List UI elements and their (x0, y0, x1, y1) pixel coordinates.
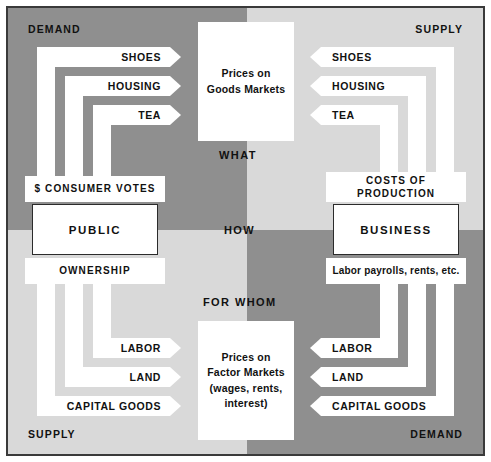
factor-market-line-4: interest) (224, 397, 267, 409)
flow-label-right-land: LAND (332, 371, 364, 383)
flow-label-right-tea: TEA (332, 109, 355, 121)
flow-arrow-left-labor: LABOR (93, 338, 181, 358)
labor-payrolls-label: Labor payrolls, rents, etc. (332, 264, 459, 278)
goods-market-line-1: Prices on (221, 67, 270, 79)
ownership-label: OWNERSHIP (59, 264, 131, 278)
flow-arrow-right-tea: TEA (310, 105, 398, 125)
business-agent-label: BUSINESS (360, 224, 432, 236)
flow-arrow-right-labor: LABOR (310, 338, 398, 358)
corner-label-bottom-left: SUPPLY (28, 428, 76, 440)
flow-arrow-left-land: LAND (65, 367, 181, 387)
flow-arrow-right-shoes: SHOES (310, 47, 454, 67)
flow-label-left-shoes: SHOES (121, 51, 161, 63)
factor-market-line-2: Factor Markets (207, 366, 285, 378)
flow-leg-left-capital (37, 284, 55, 396)
question-label-how: HOW (224, 224, 255, 236)
flow-leg-left-shoes (37, 47, 55, 182)
factor-market-box: Prices on Factor Markets (wages, rents, … (198, 321, 294, 440)
diagram-frame: SHOES HOUSING TEA SHOES HOUSING TEA LABO… (6, 6, 485, 456)
costs-of-production-label: COSTS OF PRODUCTION (357, 174, 435, 201)
flow-leg-right-capital (436, 284, 454, 396)
flow-label-right-labor: LABOR (332, 342, 372, 354)
costs-line-1: COSTS OF (366, 175, 426, 186)
flow-label-left-labor: LABOR (121, 342, 161, 354)
flow-leg-right-shoes (436, 47, 454, 182)
flow-label-left-tea: TEA (138, 109, 161, 121)
flow-arrow-right-capital: CAPITAL GOODS (310, 396, 454, 416)
corner-label-top-right: SUPPLY (415, 23, 463, 35)
flow-label-left-housing: HOUSING (108, 80, 161, 92)
corner-label-top-left: DEMAND (28, 23, 81, 35)
flow-leg-right-labor (380, 284, 398, 338)
circular-flow-diagram: SHOES HOUSING TEA SHOES HOUSING TEA LABO… (0, 0, 491, 462)
flow-arrow-left-shoes: SHOES (37, 47, 181, 67)
goods-market-box: Prices on Goods Markets (198, 22, 294, 141)
costs-of-production-band: COSTS OF PRODUCTION (326, 172, 466, 202)
public-agent-box: PUBLIC (32, 204, 158, 255)
flow-arrow-right-land: LAND (310, 367, 426, 387)
flow-label-left-land: LAND (129, 371, 161, 383)
goods-market-label: Prices on Goods Markets (207, 66, 285, 96)
flow-label-left-capital: CAPITAL GOODS (67, 400, 161, 412)
corner-label-bottom-right: DEMAND (410, 428, 463, 440)
flow-arrow-left-capital: CAPITAL GOODS (37, 396, 181, 416)
flow-label-right-shoes: SHOES (332, 51, 372, 63)
goods-market-line-2: Goods Markets (207, 83, 285, 95)
flow-leg-left-land (65, 284, 83, 367)
factor-market-label: Prices on Factor Markets (wages, rents, … (207, 350, 285, 411)
flow-label-right-capital: CAPITAL GOODS (332, 400, 426, 412)
ownership-band: OWNERSHIP (25, 258, 165, 284)
flow-arrow-left-housing: HOUSING (65, 76, 181, 96)
costs-line-2: PRODUCTION (357, 188, 435, 199)
consumer-votes-band: $ CONSUMER VOTES (25, 176, 165, 202)
labor-payrolls-band: Labor payrolls, rents, etc. (326, 258, 466, 284)
flow-leg-left-labor (93, 284, 111, 338)
factor-market-line-1: Prices on (221, 351, 270, 363)
flow-arrow-left-tea: TEA (93, 105, 181, 125)
flow-label-right-housing: HOUSING (332, 80, 385, 92)
question-label-what: WHAT (219, 149, 257, 161)
consumer-votes-label: $ CONSUMER VOTES (35, 182, 156, 196)
flow-leg-right-land (408, 284, 426, 367)
factor-market-line-3: (wages, rents, (210, 382, 283, 394)
question-label-for-whom: FOR WHOM (203, 296, 277, 308)
flow-arrow-right-housing: HOUSING (310, 76, 426, 96)
public-agent-label: PUBLIC (69, 224, 121, 236)
business-agent-box: BUSINESS (333, 204, 459, 255)
